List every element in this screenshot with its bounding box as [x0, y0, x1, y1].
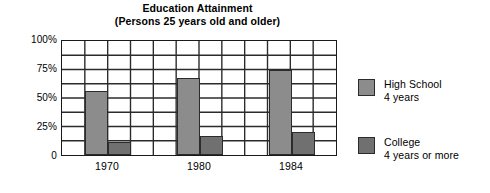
legend-label-line1: High School: [384, 78, 442, 91]
legend-entry: High School4 years: [358, 78, 442, 103]
y-axis-tick-label: 25%: [0, 122, 57, 132]
bar: [108, 142, 131, 155]
y-axis: 025%50%75%100%: [0, 40, 57, 156]
education-attainment-chart: Education Attainment (Persons 25 years o…: [0, 0, 490, 193]
legend-swatch-icon: [358, 79, 375, 96]
y-axis-tick-label: 100%: [0, 35, 57, 45]
chart-title: Education Attainment: [60, 2, 335, 15]
chart-subtitle: (Persons 25 years old and older): [60, 15, 335, 28]
x-axis: 197019801984: [61, 160, 337, 176]
bar: [200, 136, 223, 155]
legend-label-line2: 4 years: [384, 91, 442, 104]
legend-label: College4 years or more: [384, 136, 459, 161]
x-axis-tick-label: 1980: [187, 160, 211, 172]
legend-swatch-icon: [358, 137, 375, 154]
y-axis-tick-label: 50%: [0, 93, 57, 103]
bar: [292, 132, 315, 155]
bar: [269, 70, 292, 155]
chart-title-block: Education Attainment (Persons 25 years o…: [60, 2, 335, 27]
x-axis-tick-label: 1970: [95, 160, 119, 172]
bar: [177, 78, 200, 155]
y-axis-tick-label: 75%: [0, 64, 57, 74]
bar: [85, 91, 108, 155]
bars-layer: [62, 41, 336, 155]
legend-label-line1: College: [384, 136, 459, 149]
legend-entry: College4 years or more: [358, 136, 459, 161]
plot-area: [61, 40, 337, 156]
x-axis-tick-label: 1984: [279, 160, 303, 172]
y-axis-tick-label: 0: [0, 151, 57, 161]
legend-label: High School4 years: [384, 78, 442, 103]
legend-label-line2: 4 years or more: [384, 149, 459, 162]
